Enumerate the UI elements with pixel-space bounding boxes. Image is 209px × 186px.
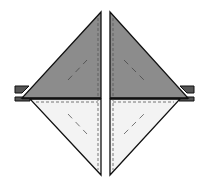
left-top-triangle	[22, 12, 101, 98]
diagram-canvas	[0, 0, 209, 186]
right-unit	[110, 12, 194, 175]
left-unit	[15, 12, 101, 175]
right-bottom-triangle	[110, 99, 180, 175]
hst-diagram	[0, 0, 209, 186]
left-bottom-triangle	[30, 99, 101, 175]
right-top-triangle	[110, 12, 188, 98]
